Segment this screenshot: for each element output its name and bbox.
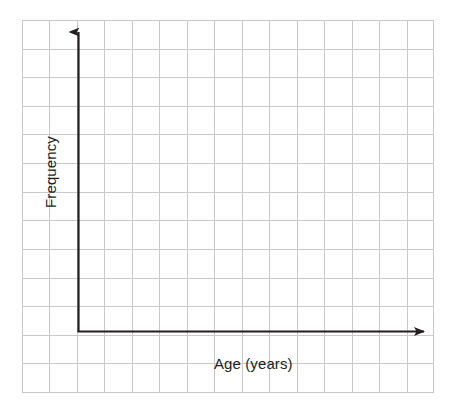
axes-group [0,0,459,412]
x-axis-label: Age (years) [214,355,293,372]
graph-paper-chart: Age (years) Frequency [0,0,459,412]
y-axis-label: Frequency [42,136,59,208]
